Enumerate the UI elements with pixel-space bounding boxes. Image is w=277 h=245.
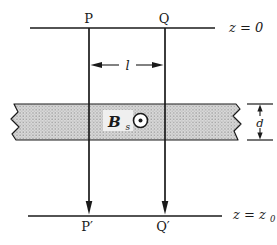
thickness-arrowhead-up [257, 105, 262, 112]
field-out-of-page-icon [134, 114, 148, 128]
field-label-base: B [107, 113, 121, 131]
diagram-canvas: z = 0 z = z 0 P P′ Q Q′ l B s [0, 0, 277, 245]
thickness-label: d [256, 116, 263, 130]
z-final-label: z = z 0 [232, 207, 276, 224]
trajectory-q-arrowhead [162, 201, 169, 215]
physics-diagram: z = 0 z = z 0 P P′ Q Q′ l B s [0, 0, 277, 245]
field-label-subscript: s [125, 122, 130, 132]
trajectory-p-arrowhead [86, 201, 93, 215]
thickness-arrowhead-down [257, 133, 262, 140]
separation-arrowhead-left [91, 62, 103, 68]
separation-label: l [125, 58, 129, 73]
z-final-label-base: z = z [232, 207, 266, 222]
z-final-label-subscript: 0 [270, 214, 276, 224]
point-q-prime-label: Q′ [156, 219, 170, 234]
point-p-prime-label: P′ [81, 219, 93, 234]
z-zero-label: z = 0 [228, 20, 263, 35]
separation-arrowhead-right [152, 62, 164, 68]
point-q-label: Q [159, 11, 170, 26]
point-p-label: P [84, 11, 93, 26]
thickness-dimension: d [247, 104, 273, 140]
